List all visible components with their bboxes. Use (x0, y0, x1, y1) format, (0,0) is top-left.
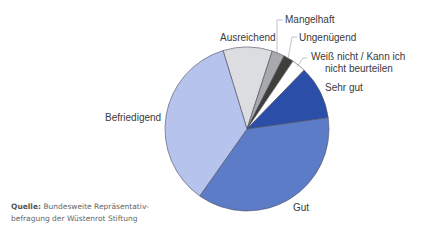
label-sehr-gut: Sehr gut (325, 82, 363, 94)
pie-chart (0, 0, 424, 235)
source-note: Quelle: Bundesweite Repräsentativ- befra… (11, 201, 149, 225)
label-gut: Gut (293, 202, 309, 214)
label-weiss-nicht-line1: Weiß nicht / Kann ich (311, 51, 405, 63)
label-weiss-nicht-line2: nicht beurteilen (325, 63, 393, 75)
label-mangelhaft: Mangelhaft (285, 14, 334, 26)
label-ausreichend: Ausreichend (220, 32, 276, 44)
label-befriedigend: Befriedigend (105, 112, 161, 124)
source-prefix: Quelle: (11, 202, 41, 211)
source-line1: Bundesweite Repräsentativ- (41, 202, 149, 211)
label-ungenuegend: Ungenügend (299, 32, 356, 44)
source-line2: befragung der Wüstenrot Stiftung (11, 213, 149, 225)
pie-slices (165, 47, 329, 211)
